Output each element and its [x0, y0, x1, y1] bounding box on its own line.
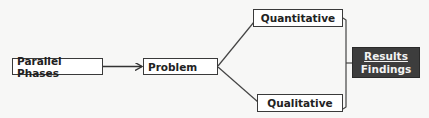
bracket-to-results — [343, 18, 346, 109]
node-problem: Problem — [143, 58, 218, 75]
line-problem-to-quantitative — [218, 22, 254, 66]
node-parallel-phases: Parallel Phases — [12, 58, 103, 75]
node-label: Qualitative — [267, 97, 332, 109]
node-qualitative: Qualitative — [257, 94, 343, 112]
node-label: Quantitative — [261, 12, 335, 24]
line-problem-to-qualitative — [218, 67, 258, 102]
node-quantitative: Quantitative — [253, 9, 343, 27]
node-results-findings: Results Findings — [352, 47, 420, 78]
findings-label: Findings — [361, 63, 412, 76]
node-label: Parallel Phases — [17, 55, 102, 79]
node-label: Problem — [148, 61, 197, 73]
results-label: Results — [364, 50, 408, 63]
